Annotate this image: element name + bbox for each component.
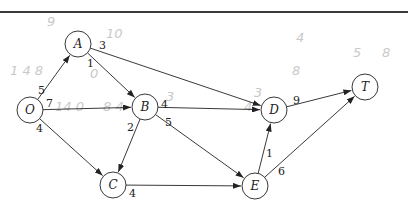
- edge-weight-label: 1: [87, 57, 94, 70]
- pencil-annotation: 10: [106, 26, 123, 41]
- edge-weight-label: 4: [36, 122, 43, 135]
- pencil-annotation: 9: [47, 14, 55, 29]
- edge-a-d: [90, 48, 260, 105]
- pencil-annotation: 4: [296, 30, 304, 45]
- node-label: E: [250, 179, 260, 193]
- pencil-annotation: 8: [382, 45, 390, 60]
- pencil-annotation: 8: [292, 63, 300, 78]
- pencil-annotation: 3: [254, 85, 262, 100]
- node-o: O: [17, 97, 43, 123]
- node-label: O: [25, 103, 35, 117]
- edge-weight-label: 5: [165, 116, 172, 129]
- node-c: C: [100, 172, 126, 198]
- node-b: B: [132, 94, 158, 120]
- edge-weight-label: 1: [266, 147, 273, 160]
- pencil-annotation: 14 0: [55, 99, 84, 114]
- edge-weight-label: 5: [38, 84, 45, 97]
- pencil-annotation: 1 4 8: [10, 63, 43, 78]
- network-diagram: 9101 4 8014 08 43344858 574132454169 OAB…: [0, 0, 408, 208]
- edge-c-e: [126, 185, 241, 186]
- pencil-annotations: 9101 4 8014 08 43344858: [10, 14, 390, 114]
- node-label: D: [268, 103, 279, 117]
- edge-weight-label: 6: [278, 165, 285, 178]
- node-label: C: [108, 178, 117, 192]
- pencil-annotation: 8 4: [103, 99, 124, 114]
- node-d: D: [261, 97, 287, 123]
- edges: 574132454169: [36, 39, 355, 200]
- node-t: T: [352, 74, 378, 100]
- nodes: OABCDET: [17, 31, 378, 199]
- edge-weight-label: 4: [129, 187, 136, 200]
- edge-weight-label: 3: [99, 39, 106, 52]
- pencil-annotation: 5: [353, 45, 361, 60]
- edge-weight-label: 7: [46, 97, 53, 110]
- node-label: T: [361, 80, 370, 94]
- node-a: A: [65, 31, 91, 57]
- edge-weight-label: 2: [127, 121, 134, 134]
- node-label: A: [73, 37, 83, 51]
- node-label: B: [140, 100, 150, 114]
- edge-weight-label: 9: [293, 94, 300, 107]
- edge-weight-label: 4: [161, 98, 168, 111]
- node-e: E: [242, 173, 268, 199]
- edge-o-c: [40, 119, 103, 176]
